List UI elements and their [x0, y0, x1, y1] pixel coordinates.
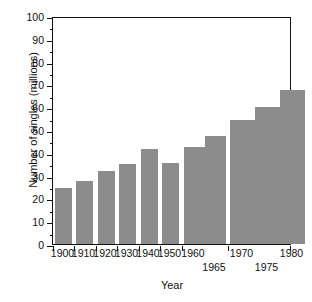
bar-1910 — [76, 181, 93, 244]
bar-1965 — [205, 136, 226, 244]
x-tick-label-1970: 1970 — [228, 248, 256, 259]
y-tick-label-100: 100 — [0, 12, 44, 22]
x-tick-label-1975: 1975 — [253, 262, 281, 273]
y-tick-label-40: 40 — [0, 149, 44, 159]
bar-1960 — [184, 147, 205, 244]
y-tick-label-60: 60 — [0, 103, 44, 113]
y-axis-tick-labels: 0102030405060708090100 — [0, 0, 44, 302]
y-tick-label-50: 50 — [0, 126, 44, 136]
y-tick-label-10: 10 — [0, 217, 44, 227]
bar-1930 — [119, 164, 136, 244]
y-tick-label-0: 0 — [0, 240, 44, 250]
bar-1900 — [55, 188, 72, 244]
bar-series — [53, 18, 290, 244]
x-tick-label-1965: 1965 — [200, 262, 228, 273]
x-axis-tick-labels: 1900191019201930194019501960196519701975… — [52, 248, 291, 278]
bar-1970 — [230, 120, 255, 244]
chart-figure: Number of singles (millions) 01020304050… — [0, 0, 312, 302]
bar-1920 — [98, 171, 115, 244]
y-tick-label-80: 80 — [0, 58, 44, 68]
y-tick-label-30: 30 — [0, 172, 44, 182]
plot-area — [52, 17, 291, 245]
y-tick-label-90: 90 — [0, 35, 44, 45]
bar-1980 — [280, 90, 305, 244]
bar-1975 — [255, 107, 280, 244]
x-tick-label-1960: 1960 — [179, 248, 207, 259]
y-tick-label-70: 70 — [0, 80, 44, 90]
x-tick-label-1980: 1980 — [278, 248, 306, 259]
x-axis-title: Year — [52, 279, 292, 291]
bar-1940 — [141, 149, 158, 244]
bar-1950 — [162, 163, 179, 244]
y-tick-label-20: 20 — [0, 194, 44, 204]
